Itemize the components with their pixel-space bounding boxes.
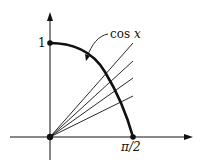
cosine-diagram: cos x 1 π/2 (0, 0, 201, 167)
y-tick-label: 1 (38, 37, 46, 49)
cos-label-var: x (134, 27, 141, 41)
cos-label-func: cos (110, 27, 130, 41)
label-leader (87, 34, 108, 57)
point-0-1 (47, 40, 53, 46)
x-axis-arrow-icon (184, 134, 193, 140)
point-origin (47, 134, 53, 140)
line-3 (50, 78, 133, 137)
point-pi-over-2 (130, 134, 136, 140)
x-tick-label: π/2 (121, 141, 141, 153)
y-axis-arrow-icon (47, 12, 53, 21)
cos-x-label: cos x (110, 28, 141, 40)
plot-canvas (0, 0, 201, 167)
